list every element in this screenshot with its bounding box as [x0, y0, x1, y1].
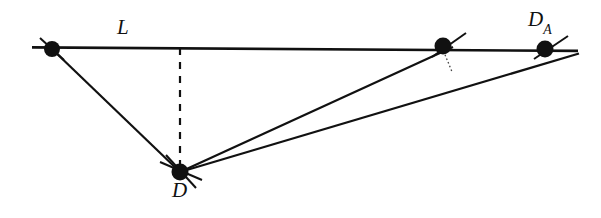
diagram-canvas	[0, 0, 601, 218]
label-point-DA-subscript: A	[543, 22, 551, 37]
label-line-L: L	[117, 17, 129, 38]
geometry-diagram: L DA D	[0, 0, 601, 218]
segment-D-to-projection	[180, 47, 453, 172]
label-point-D: D	[172, 180, 187, 201]
line-L	[32, 47, 578, 51]
segment-left-to-D	[52, 49, 180, 172]
dot-projection-point	[435, 38, 452, 55]
label-point-DA-base: D	[528, 7, 543, 31]
label-point-DA: DA	[528, 9, 552, 34]
dot-left-endpoint	[44, 41, 60, 57]
dot-point-DA	[537, 41, 554, 58]
dotted-right-angle-marker	[444, 51, 453, 73]
segment-D-to-DA	[180, 54, 579, 173]
